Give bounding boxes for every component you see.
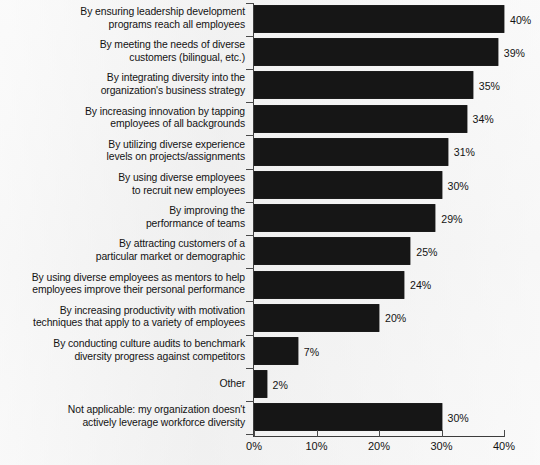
bar-value-label: 30% [448,411,469,423]
bar-value-label: 29% [441,212,462,224]
bar [254,404,442,431]
category-label: By utilizing diverse experiencelevels on… [0,139,252,164]
bar-and-value: 20% [254,304,406,331]
bar-row: By conducting culture audits to benchmar… [0,335,540,368]
category-label: By improving theperformance of teams [0,206,252,231]
category-label-line: By increasing innovation by tapping [0,106,245,119]
bar-and-value: 7% [254,338,319,365]
bar-value-label: 20% [385,312,406,324]
bar-and-value: 2% [254,371,288,398]
category-label: By integrating diversity into theorganiz… [0,73,252,98]
category-label-line: to recruit new employees [0,185,245,198]
y-axis-tick [246,301,254,302]
category-label-line: By using diverse employees [0,173,245,186]
bar-row: Other2% [0,368,540,401]
bar [254,205,435,232]
bar [254,6,504,33]
bar-row: By attracting customers of aparticular m… [0,235,540,268]
horizontal-bar-chart: By ensuring leadership developmentprogra… [0,0,540,465]
category-label: By increasing productivity with motivati… [0,305,252,330]
y-axis-tick [246,368,254,369]
category-label-line: performance of teams [0,218,245,231]
category-label: By attracting customers of aparticular m… [0,239,252,264]
category-label: By conducting culture audits to benchmar… [0,339,252,364]
category-label-line: By improving the [0,206,245,219]
bar [254,371,267,398]
bar-row: By improving theperformance of teams29% [0,202,540,235]
bar-value-label: 2% [273,378,288,390]
bar-and-value: 39% [254,39,525,66]
bar-row: By integrating diversity into theorganiz… [0,69,540,102]
category-label: By meeting the needs of diversecustomers… [0,40,252,65]
category-label-line: By utilizing diverse experience [0,139,245,152]
bar [254,238,410,265]
category-label-line: Other [0,378,245,391]
category-label-line: diversity progress against competitors [0,351,245,364]
bar-value-label: 25% [416,245,437,257]
category-label-line: By integrating diversity into the [0,73,245,86]
bar-rows-container: By ensuring leadership developmentprogra… [0,0,540,432]
y-axis-tick [246,135,254,136]
x-axis-tick-label: 10% [305,440,327,452]
category-label-line: By increasing productivity with motivati… [0,305,245,318]
y-axis-tick [246,268,254,269]
y-axis-tick [246,102,254,103]
y-axis-tick [246,401,254,402]
bar-value-label: 24% [410,279,431,291]
bar-row: By increasing productivity with motivati… [0,301,540,334]
bar [254,39,498,66]
bar-value-label: 30% [448,179,469,191]
x-axis-tick-label: 20% [368,440,390,452]
x-axis-tick [504,430,505,437]
y-axis-tick [246,69,254,70]
category-label-line: Not applicable: my organization doesn't [0,405,245,418]
bar-value-label: 39% [504,46,525,58]
category-label-line: techniques that apply to a variety of em… [0,318,245,331]
category-label: Other [0,378,252,391]
category-label: By using diverse employeesto recruit new… [0,173,252,198]
category-label-line: By using diverse employees as mentors to… [0,272,245,285]
x-axis-tick-label: 0% [246,440,262,452]
x-axis-tick [379,430,380,437]
category-label-line: employees improve their personal perform… [0,285,245,298]
category-label: By using diverse employees as mentors to… [0,272,252,297]
bar-value-label: 7% [304,345,319,357]
bar [254,271,404,298]
bar-row: By increasing innovation by tappingemplo… [0,102,540,135]
category-label-line: employees of all backgrounds [0,119,245,132]
bar-and-value: 31% [254,138,475,165]
category-label: By increasing innovation by tappingemplo… [0,106,252,131]
x-axis-tick [254,430,255,437]
bar [254,105,467,132]
bar [254,138,448,165]
bar-value-label: 34% [473,113,494,125]
y-axis-tick [246,335,254,336]
bar-and-value: 29% [254,205,462,232]
bar-and-value: 30% [254,404,469,431]
y-axis-tick [246,169,254,170]
bar-and-value: 40% [254,6,531,33]
y-axis-tick [246,36,254,37]
bar-value-label: 35% [479,79,500,91]
category-label-line: By ensuring leadership development [0,7,245,20]
bar-value-label: 31% [454,146,475,158]
category-label-line: programs reach all employees [0,19,245,32]
bar-value-label: 40% [510,13,531,25]
bar-row: By meeting the needs of diversecustomers… [0,36,540,69]
category-label-line: actively leverage workforce diversity [0,417,245,430]
bar-row: By ensuring leadership developmentprogra… [0,3,540,36]
bar-and-value: 34% [254,105,494,132]
y-axis-tick [246,202,254,203]
y-axis-tick [246,235,254,236]
bar-and-value: 30% [254,172,469,199]
bar [254,72,473,99]
x-axis-tick-label: 40% [493,440,515,452]
bar-and-value: 25% [254,238,437,265]
category-label: Not applicable: my organization doesn'ta… [0,405,252,430]
bar-row: By using diverse employeesto recruit new… [0,169,540,202]
category-label-line: levels on projects/assignments [0,152,245,165]
category-label-line: By attracting customers of a [0,239,245,252]
bar [254,338,298,365]
bar-row: Not applicable: my organization doesn'ta… [0,401,540,434]
y-axis-tick [246,434,254,435]
